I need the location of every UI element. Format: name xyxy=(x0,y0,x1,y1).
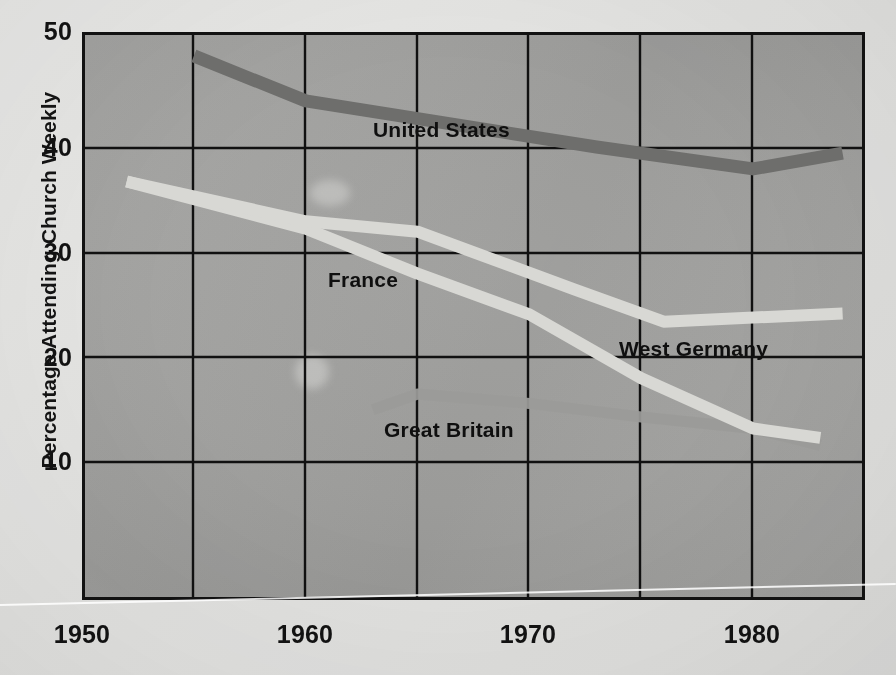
series-label-west-germany: West Germany xyxy=(619,337,768,361)
chart-figure: Percentage Attending Church Weekly xyxy=(0,0,896,675)
series-label-france: France xyxy=(328,268,398,292)
series-label-united-states: United States xyxy=(373,118,510,142)
series-label-great-britain: Great Britain xyxy=(384,418,514,442)
series-line-united-states xyxy=(194,56,843,169)
